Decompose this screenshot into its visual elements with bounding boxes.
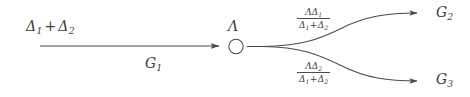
lower-den-sub2: 2	[324, 77, 328, 84]
g1-symbol: G	[145, 55, 156, 71]
diagram-canvas: Δ1+Δ2 G1 Λ ΛΔ1 Δ1+Δ2 ΛΔ2 Δ1+Δ2 G2 G3	[0, 0, 470, 97]
lower-den-plus: +	[310, 74, 318, 84]
source-delta2-subscript: 2	[69, 25, 75, 36]
lower-num-subscript: 2	[318, 65, 322, 72]
branch-upper-numerator: ΛΔ1	[297, 7, 330, 18]
branch-upper-path	[263, 13, 417, 47]
source-plus-operator: +	[44, 18, 56, 34]
main-edge-label: G1	[145, 56, 162, 72]
source-delta1-symbol: Δ	[26, 18, 36, 34]
output-label-g3: G3	[436, 72, 453, 88]
upper-den-sub2: 2	[324, 23, 328, 30]
g2-symbol: G	[436, 4, 447, 20]
upper-num-subscript: 1	[318, 11, 322, 18]
lambda-node-label: Λ	[228, 19, 238, 33]
g2-subscript: 2	[447, 11, 453, 22]
branch-lower-denominator: Δ1+Δ2	[297, 73, 330, 84]
branch-lower-rate-label: ΛΔ2 Δ1+Δ2	[297, 61, 330, 84]
source-delta1-subscript: 1	[37, 25, 43, 36]
upper-den-sub1: 1	[306, 23, 310, 30]
source-delta2-symbol: Δ	[58, 18, 68, 34]
g3-symbol: G	[436, 71, 447, 87]
upper-den-plus: +	[310, 20, 318, 30]
lower-den-sub1: 1	[306, 77, 310, 84]
g3-subscript: 3	[447, 78, 453, 89]
diagram-vector-layer	[0, 0, 470, 97]
source-term-label: Δ1+Δ2	[26, 19, 75, 35]
branch-lower-numerator: ΛΔ2	[297, 61, 330, 72]
branch-upper-rate-label: ΛΔ1 Δ1+Δ2	[297, 7, 330, 30]
g1-subscript: 1	[156, 62, 162, 73]
branch-upper-denominator: Δ1+Δ2	[297, 19, 330, 30]
lambda-node-circle	[229, 39, 243, 53]
branch-lower-path	[263, 47, 417, 82]
output-label-g2: G2	[436, 5, 453, 21]
